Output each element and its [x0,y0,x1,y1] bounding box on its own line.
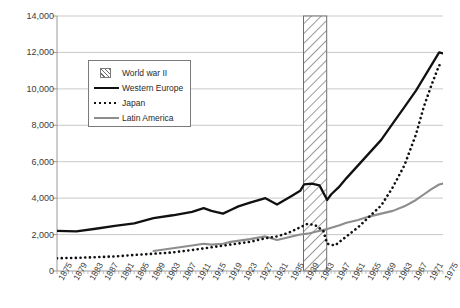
series-latin-america [154,184,444,251]
y-axis-tick-label: 6,000 [8,157,54,167]
legend-label: Latin America [122,113,174,123]
legend-label: Western Europe [122,83,183,93]
y-axis-tick-label: 0 [8,266,54,276]
y-axis-tick-label: 4,000 [8,193,54,203]
chart-legend[interactable]: World war II Western Europe Japan Latin … [88,60,191,127]
x-axis-minor-ticks [57,271,443,274]
legend-label: World war II [122,68,167,78]
legend-item-world-war-ii[interactable]: World war II [93,65,186,80]
legend-item-western-europe[interactable]: Western Europe [93,80,186,95]
y-axis-tick-label: 2,000 [8,230,54,240]
legend-label: Japan [122,98,145,108]
y-axis-tick-label: 8,000 [8,120,54,130]
legend-item-latin-america[interactable]: Latin America [93,110,186,125]
y-axis-tick-labels: 02,0004,0006,0008,00010,00012,00014,000 [8,0,54,308]
axis-lines [57,16,443,271]
dotted-black-line-icon [93,97,119,109]
legend-item-japan[interactable]: Japan [93,95,186,110]
y-axis-tick-label: 14,000 [8,11,54,21]
solid-black-line-icon [93,82,119,94]
hatch-swatch-icon [93,67,119,79]
solid-gray-line-icon [93,112,119,124]
y-axis-tick-label: 12,000 [8,47,54,57]
y-axis-tick-label: 10,000 [8,84,54,94]
